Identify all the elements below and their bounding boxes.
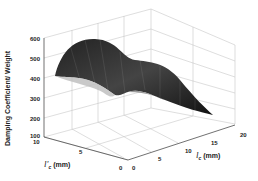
surface <box>55 39 213 115</box>
x-tick: 15 <box>211 140 218 146</box>
y-tick: 10 <box>33 139 40 145</box>
y-tick: 5 <box>79 149 82 155</box>
z-tick: 400 <box>30 76 40 82</box>
z-axis-label: Damping Coefficient/ Weight <box>4 51 11 146</box>
z-tick: 600 <box>30 36 40 42</box>
z-tick: 200 <box>30 116 40 122</box>
x-tick: 10 <box>185 148 192 154</box>
x-axis-label: lc (mm) <box>196 150 220 161</box>
z-tick: 300 <box>30 96 40 102</box>
y-axis-label: l'c (mm) <box>44 159 70 170</box>
x-tick: 20 <box>240 132 247 138</box>
z-tick: 500 <box>30 56 40 62</box>
x-tick: 0 <box>132 165 135 171</box>
y-tick: 0 <box>119 165 122 171</box>
x-tick: 5 <box>158 156 161 162</box>
